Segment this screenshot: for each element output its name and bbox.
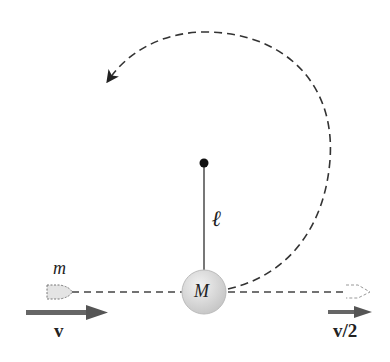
final-velocity-arrow [328,306,372,318]
pivot-point [200,159,209,168]
trajectory-arc [110,32,330,289]
pendulum-diagram [0,0,390,362]
projectile-exit-ghost [346,285,370,298]
initial-velocity-label: v [54,320,64,342]
bob-mass-label: M [194,281,209,302]
final-velocity-label: v/2 [333,320,357,342]
projectile-mass-label: m [53,258,66,279]
initial-velocity-arrow [26,305,108,320]
rod-length-label: ℓ [212,206,221,232]
projectile [47,285,72,299]
